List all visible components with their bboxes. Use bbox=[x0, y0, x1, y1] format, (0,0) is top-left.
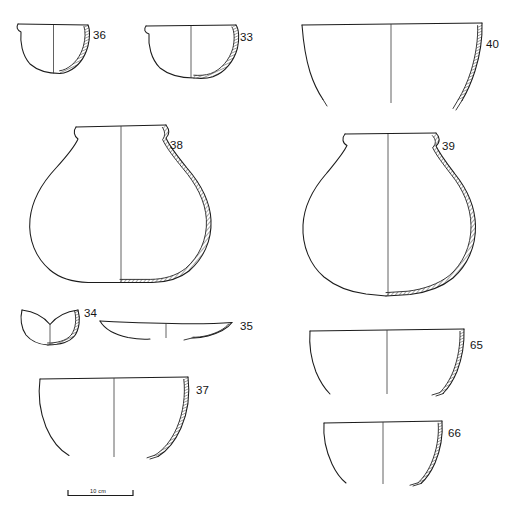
vessel-label-33: 33 bbox=[240, 31, 253, 43]
vessel-34: 34 bbox=[21, 307, 98, 345]
vessel-label-36: 36 bbox=[93, 29, 106, 41]
scale-bar: 10 cm bbox=[68, 488, 133, 496]
vessel-label-34: 34 bbox=[84, 307, 98, 319]
vessel-profile-drawing: 36 33 40 bbox=[0, 0, 507, 511]
vessel-label-65: 65 bbox=[470, 339, 483, 351]
vessel-40: 40 bbox=[302, 23, 499, 110]
vessel-38: 38 bbox=[30, 125, 211, 283]
vessel-label-37: 37 bbox=[196, 384, 209, 396]
vessel-label-39: 39 bbox=[442, 140, 455, 152]
vessel-66: 66 bbox=[324, 421, 461, 486]
scale-bar-label: 10 cm bbox=[90, 488, 106, 494]
vessel-33: 33 bbox=[145, 25, 254, 78]
vessel-label-40: 40 bbox=[486, 38, 499, 50]
vessel-37: 37 bbox=[39, 377, 209, 459]
vessel-label-38: 38 bbox=[170, 139, 183, 151]
vessel-39: 39 bbox=[303, 133, 476, 296]
pottery-plate: 36 33 40 bbox=[0, 0, 507, 511]
vessel-36: 36 bbox=[17, 24, 106, 74]
vessel-label-35: 35 bbox=[240, 320, 253, 332]
vessel-label-66: 66 bbox=[448, 427, 461, 439]
vessel-35: 35 bbox=[100, 320, 253, 340]
vessel-65: 65 bbox=[310, 329, 483, 396]
